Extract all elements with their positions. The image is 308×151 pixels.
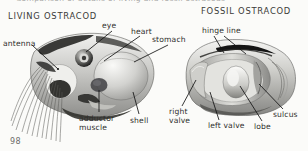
label-adductor-muscle: adductor muscle [79,115,123,132]
label-heart: heart [131,28,152,37]
label-hinge-line: hinge line [202,27,241,36]
page-number: 98 [10,137,21,146]
label-left-valve: left valve [208,122,245,131]
label-eye: eye [102,22,116,31]
label-lobe: lobe [254,123,271,132]
label-shell: shell [130,117,148,126]
heading-living-ostracod: LIVING OSTRACOD [8,11,97,21]
label-stomach: stomach [152,36,186,45]
label-sulcus: sulcus [273,111,298,120]
label-right-valve: right valve [169,108,195,125]
fossil-ostracod-illustration [182,36,296,121]
figure-page: Comparison of details of living and foss… [0,0,308,151]
heading-fossil-ostracod: FOSSIL OSTRACOD [201,6,291,16]
label-antenna: antenna [3,40,35,49]
